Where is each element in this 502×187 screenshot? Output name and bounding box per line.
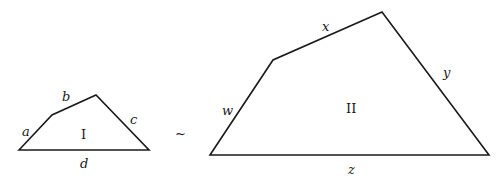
quadrilateral-II: w x y II z xyxy=(210,12,489,177)
similarity-symbol: ~ xyxy=(175,126,186,141)
side-label-d: d xyxy=(80,156,88,171)
side-label-b: b xyxy=(62,89,70,104)
side-label-z: z xyxy=(347,162,355,177)
side-label-a: a xyxy=(22,124,30,139)
side-label-w: w xyxy=(222,103,233,118)
side-label-y: y xyxy=(442,65,451,80)
quadrilateral-I: a b c I d xyxy=(19,89,149,171)
side-label-x: x xyxy=(322,19,330,34)
shape-label-II: II xyxy=(346,101,356,116)
shape-label-I: I xyxy=(81,127,86,142)
side-label-c: c xyxy=(130,112,138,127)
quadrilateral-II-outline xyxy=(210,12,489,155)
similar-quadrilaterals-diagram: a b c I d ~ w x y II z xyxy=(0,0,502,187)
